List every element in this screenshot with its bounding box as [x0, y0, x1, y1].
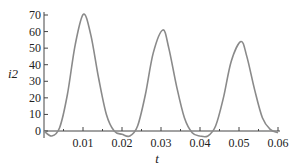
y-tick-label: 10	[29, 107, 41, 121]
x-tick-label: 0.03	[151, 136, 172, 150]
x-tick-label: 0.04	[190, 136, 211, 150]
i2-series-line	[44, 14, 278, 137]
y-tick-label: 40	[29, 58, 41, 72]
y-tick-label: 20	[29, 91, 41, 105]
x-tick-label: 0.06	[268, 136, 289, 150]
y-tick-label: 30	[29, 74, 41, 88]
y-tick-label: 50	[29, 41, 41, 55]
y-axis-title: i2	[8, 66, 19, 81]
x-tick-label: 0.02	[112, 136, 133, 150]
line-chart: 010203040506070 0.010.020.030.040.050.06…	[0, 0, 304, 166]
y-tick-label: 60	[29, 25, 41, 39]
x-tick-label: 0.05	[229, 136, 250, 150]
y-tick-label: 0	[35, 124, 41, 138]
y-axis: 010203040506070	[29, 8, 48, 138]
y-tick-label: 70	[29, 8, 41, 22]
x-tick-label: 0.01	[73, 136, 94, 150]
x-axis: 0.010.020.030.040.050.06	[44, 127, 289, 150]
x-axis-title: t	[155, 151, 159, 166]
